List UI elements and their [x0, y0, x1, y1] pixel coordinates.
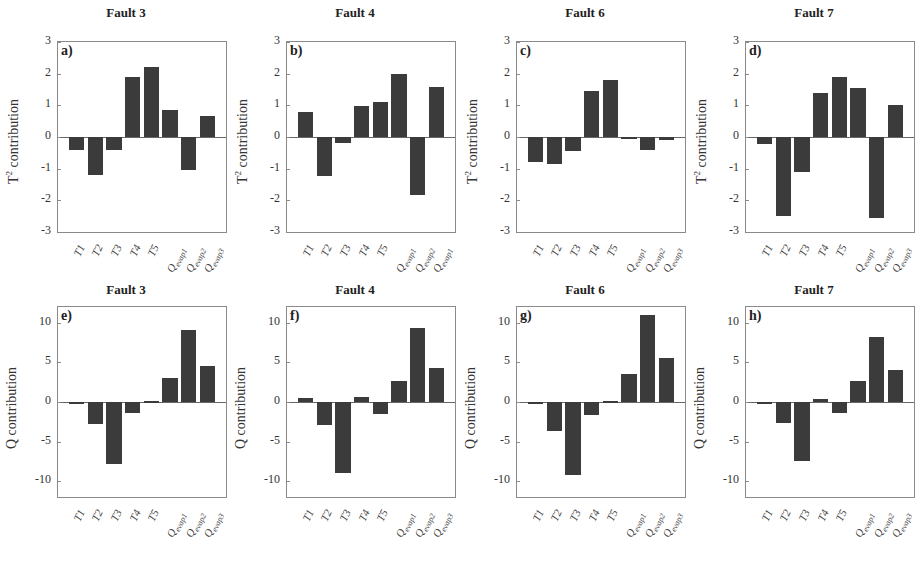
chart-panel-g: Fault 6g)1050-5-10Q contributionT1T2T3T4…	[459, 277, 688, 557]
y-tick-label: 10	[27, 314, 51, 329]
bar-qevap2	[869, 137, 884, 218]
bar-t5	[373, 102, 388, 137]
x-tick-label: T2	[89, 507, 105, 523]
bar-qevap3	[200, 116, 215, 137]
bar-t5	[832, 402, 847, 413]
x-tick-label: T1	[71, 507, 87, 523]
x-tick-label: T2	[89, 242, 105, 258]
y-tick-label: 1	[27, 96, 51, 111]
y-tick-mark	[287, 481, 290, 482]
y-tick-mark	[517, 200, 520, 201]
y-tick-mark	[746, 232, 749, 233]
y-tick-mark	[287, 402, 290, 403]
x-tick-label: T2	[548, 242, 564, 258]
y-tick-mark	[287, 200, 290, 201]
x-tick-label: T2	[777, 242, 793, 258]
y-tick-label: 0	[715, 128, 739, 143]
y-tick-label: -5	[256, 433, 280, 448]
bar-t2	[776, 402, 791, 423]
x-tick-label: Qevap1	[852, 244, 877, 275]
y-tick-label: -2	[256, 191, 280, 206]
x-tick-label: T2	[318, 507, 334, 523]
bar-t5	[603, 80, 618, 137]
plot-area: c)	[516, 41, 686, 233]
bar-t4	[813, 399, 828, 402]
x-tick-label: T1	[759, 242, 775, 258]
y-axis-label: Q contribution	[463, 367, 479, 449]
x-tick-label: T4	[586, 507, 602, 523]
bar-qevap1	[162, 110, 177, 137]
bar-qevap1	[429, 87, 444, 137]
y-tick-label: 0	[715, 393, 739, 408]
y-tick-mark	[58, 323, 61, 324]
y-tick-label: 2	[27, 65, 51, 80]
plot-area: a)	[57, 41, 227, 233]
y-tick-label: -5	[486, 433, 510, 448]
y-tick-mark	[517, 323, 520, 324]
bar-t4	[584, 91, 599, 137]
y-tick-label: 0	[27, 393, 51, 408]
bar-qevap1	[621, 374, 636, 402]
y-tick-label: 1	[486, 96, 510, 111]
y-tick-label: 3	[486, 33, 510, 48]
y-tick-label: -10	[256, 472, 280, 487]
bar-qevap2	[640, 137, 655, 150]
x-tick-label: T1	[300, 507, 316, 523]
bar-t4	[813, 93, 828, 137]
bar-t2	[88, 402, 103, 424]
y-tick-label: 2	[715, 65, 739, 80]
x-tick-label: T1	[530, 242, 546, 258]
y-tick-label: 5	[715, 353, 739, 368]
y-tick-label: -3	[486, 223, 510, 238]
bar-t5	[832, 77, 847, 137]
y-tick-label: 3	[715, 33, 739, 48]
bar-t1	[528, 137, 543, 162]
chart-panel-a: Fault 3a)3210-1-2-3T2 contributionT1T2T3…	[0, 0, 229, 280]
y-tick-mark	[746, 362, 749, 363]
bar-t5	[373, 402, 388, 414]
plot-area: e)	[57, 306, 227, 498]
y-tick-mark	[746, 169, 749, 170]
y-tick-label: -5	[715, 433, 739, 448]
y-tick-label: 2	[256, 65, 280, 80]
y-tick-mark	[58, 169, 61, 170]
plot-area: d)	[745, 41, 915, 233]
y-tick-mark	[517, 481, 520, 482]
bar-t4	[125, 77, 140, 137]
chart-panel-f: Fault 4f)1050-5-10Q contributionT1T2T3T4…	[229, 277, 458, 557]
y-tick-label: 5	[256, 353, 280, 368]
y-tick-label: 2	[486, 65, 510, 80]
y-tick-mark	[287, 232, 290, 233]
bar-t3	[565, 402, 580, 475]
y-tick-label: -10	[27, 472, 51, 487]
y-tick-mark	[517, 42, 520, 43]
x-tick-label: T5	[145, 242, 161, 258]
bar-t3	[565, 137, 580, 151]
bar-t4	[584, 402, 599, 415]
y-tick-mark	[58, 442, 61, 443]
y-tick-label: 5	[27, 353, 51, 368]
bar-qevap1	[850, 381, 865, 402]
x-tick-label: T2	[548, 507, 564, 523]
bar-t3	[335, 402, 350, 473]
y-tick-mark	[746, 137, 749, 138]
y-tick-label: -1	[486, 160, 510, 175]
y-tick-label: -1	[256, 160, 280, 175]
y-axis-label: T2 contribution	[463, 99, 481, 184]
y-tick-mark	[287, 74, 290, 75]
x-tick-label: T5	[374, 242, 390, 258]
y-tick-mark	[517, 402, 520, 403]
y-tick-label: -1	[715, 160, 739, 175]
x-tick-label: T3	[796, 507, 812, 523]
bar-t4	[125, 402, 140, 413]
y-tick-mark	[746, 74, 749, 75]
x-tick-label: T5	[145, 507, 161, 523]
bar-t1	[528, 402, 543, 404]
x-tick-label: T3	[108, 507, 124, 523]
x-tick-label: T4	[127, 507, 143, 523]
y-tick-mark	[517, 362, 520, 363]
y-tick-label: 5	[486, 353, 510, 368]
bar-t2	[547, 137, 562, 164]
y-tick-mark	[287, 442, 290, 443]
x-tick-label: T4	[127, 242, 143, 258]
